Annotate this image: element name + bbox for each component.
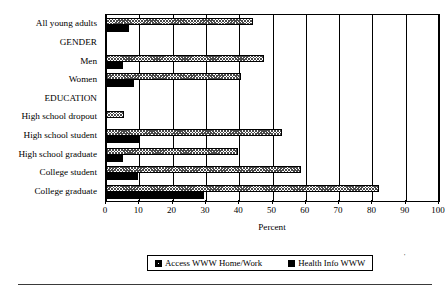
bar-health-info-www <box>106 62 123 69</box>
bar-health-info-www <box>106 80 134 87</box>
bar-health-info-www <box>106 173 138 180</box>
x-axis-tick <box>438 200 439 204</box>
chart-legend: Access WWW Home/Work Health Info WWW <box>147 255 373 271</box>
bar-access-www <box>106 18 253 25</box>
x-axis-tick-label: 50 <box>257 205 287 216</box>
x-axis-tick-label: 60 <box>290 205 320 216</box>
category-label: GENDER <box>60 36 97 48</box>
x-axis-tick-label: 80 <box>356 205 386 216</box>
category-label: High school graduate <box>18 148 97 160</box>
legend-label-access-www: Access WWW Home/Work <box>165 258 262 268</box>
x-axis-tick <box>172 200 173 204</box>
x-axis-tick-label: 0 <box>90 205 120 216</box>
bar-health-info-www <box>106 25 129 32</box>
category-label: All young adults <box>36 17 97 29</box>
category-label: College graduate <box>34 185 97 197</box>
category-label: High school student <box>24 129 98 141</box>
x-axis-tick <box>338 200 339 204</box>
category-label: High school dropout <box>21 110 97 122</box>
category-label: EDUCATION <box>44 92 97 104</box>
x-axis-tick-label: 70 <box>323 205 353 216</box>
x-axis-tick <box>105 200 106 204</box>
bar-access-www <box>106 129 282 136</box>
legend-entry-access-www: Access WWW Home/Work <box>155 258 262 268</box>
category-label: Women <box>69 73 97 85</box>
bar-health-info-www <box>106 136 139 143</box>
x-axis-tick-label: 90 <box>390 205 420 216</box>
x-axis-tick <box>238 200 239 204</box>
bar-access-www <box>106 148 238 155</box>
bar-health-info-www <box>106 155 123 162</box>
bar-chart-figure: All young adultsGENDERMenWomenEDUCATIONH… <box>0 0 447 292</box>
bar-access-www <box>106 185 379 192</box>
x-axis-tick-label: 10 <box>123 205 153 216</box>
plot-area <box>105 14 440 202</box>
x-axis-tick <box>371 200 372 204</box>
x-axis-tick <box>205 200 206 204</box>
stray-apostrophe-mark: ' <box>404 252 405 260</box>
bar-access-www <box>106 166 301 173</box>
x-axis-tick <box>138 200 139 204</box>
x-axis-tick <box>305 200 306 204</box>
legend-entry-health-info-www: Health Info WWW <box>288 258 365 268</box>
x-axis-tick <box>272 200 273 204</box>
footer-rule <box>18 284 432 285</box>
hatched-square-icon <box>155 260 162 267</box>
bar-access-www <box>106 55 264 62</box>
x-axis-tick-label: 40 <box>223 205 253 216</box>
bar-access-www <box>106 73 241 80</box>
bar-access-www <box>106 111 124 118</box>
category-label: Men <box>80 55 97 67</box>
bars-layer <box>106 15 439 201</box>
x-axis-tick <box>405 200 406 204</box>
filled-square-icon <box>288 260 295 267</box>
x-axis-title: Percent <box>105 222 439 232</box>
x-axis-tick-label: 30 <box>190 205 220 216</box>
x-axis-tick-label: 20 <box>157 205 187 216</box>
bar-health-info-www <box>106 192 204 199</box>
category-label: College student <box>40 166 97 178</box>
category-axis-labels: All young adultsGENDERMenWomenEDUCATIONH… <box>0 14 101 200</box>
legend-label-health-info-www: Health Info WWW <box>298 258 365 268</box>
x-axis-tick-label: 100 <box>423 205 447 216</box>
